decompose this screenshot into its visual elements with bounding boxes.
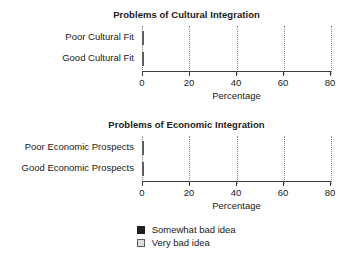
legend-label-very-bad-idea: Very bad idea <box>152 237 210 248</box>
category-label-poor-cultural-fit: Poor Cultural Fit <box>65 31 134 42</box>
x-axis-title-cultural: Percentage <box>142 90 331 101</box>
plot-area-economic <box>142 138 331 180</box>
chart-panel-cultural: Problems of Cultural Integration Poor Cu… <box>0 0 351 110</box>
bar-segment-very-bad-idea <box>142 52 144 66</box>
x-tick-0 <box>142 181 143 186</box>
category-label-good-cultural-fit: Good Cultural Fit <box>62 52 134 63</box>
x-tick-80 <box>330 181 331 186</box>
bar-segment-very-bad-idea <box>142 141 144 155</box>
x-tick-label-60: 60 <box>278 187 289 198</box>
x-tick-label-0: 0 <box>139 187 144 198</box>
legend: Somewhat bad idea Very bad idea <box>0 224 351 256</box>
x-tick-60 <box>283 181 284 186</box>
chart-title-economic: Problems of Economic Integration <box>0 119 351 130</box>
legend-swatch-very-bad-idea <box>137 239 145 247</box>
gridline-80 <box>331 26 332 74</box>
chart-title-cultural: Problems of Cultural Integration <box>0 9 351 20</box>
x-tick-80 <box>330 71 331 76</box>
x-tick-40 <box>236 71 237 76</box>
bars-economic <box>142 138 331 180</box>
bars-cultural <box>142 28 331 70</box>
x-tick-40 <box>236 181 237 186</box>
category-label-poor-economic-prospects: Poor Economic Prospects <box>25 141 134 152</box>
x-tick-label-40: 40 <box>231 77 242 88</box>
x-axis-title-economic: Percentage <box>142 200 331 211</box>
x-tick-20 <box>189 181 190 186</box>
legend-label-somewhat-bad-idea: Somewhat bad idea <box>152 224 236 235</box>
plot-area-cultural <box>142 28 331 70</box>
legend-swatch-somewhat-bad-idea <box>137 226 145 234</box>
x-tick-0 <box>142 71 143 76</box>
legend-item-somewhat-bad-idea: Somewhat bad idea <box>137 224 236 237</box>
gridline-80 <box>331 136 332 184</box>
x-tick-label-20: 20 <box>184 77 195 88</box>
x-tick-label-60: 60 <box>278 77 289 88</box>
x-tick-label-20: 20 <box>184 187 195 198</box>
bar-segment-very-bad-idea <box>142 31 144 45</box>
x-tick-label-80: 80 <box>325 187 336 198</box>
bar-segment-very-bad-idea <box>142 162 144 176</box>
x-tick-label-0: 0 <box>139 77 144 88</box>
chart-panel-economic: Problems of Economic Integration Poor Ec… <box>0 110 351 220</box>
legend-item-very-bad-idea: Very bad idea <box>137 237 210 250</box>
x-tick-60 <box>283 71 284 76</box>
x-tick-label-40: 40 <box>231 187 242 198</box>
category-label-good-economic-prospects: Good Economic Prospects <box>22 162 134 173</box>
x-tick-20 <box>189 71 190 76</box>
x-tick-label-80: 80 <box>325 77 336 88</box>
